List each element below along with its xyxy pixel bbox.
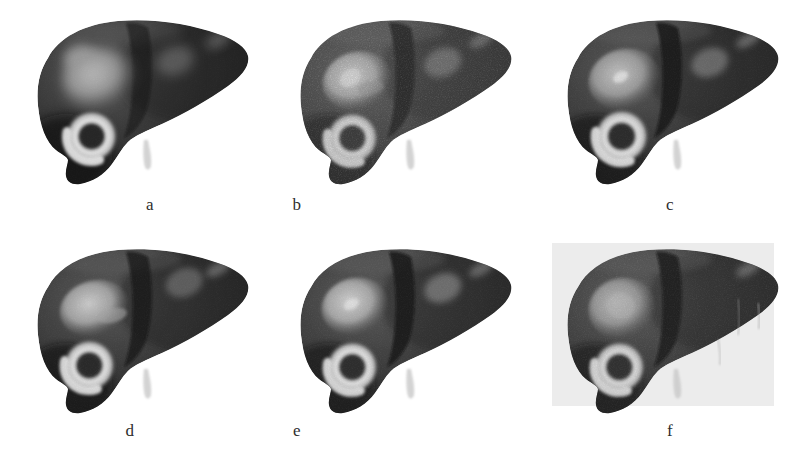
panel-label-d: d (110, 422, 150, 439)
liver-render-b (285, 14, 517, 194)
panel-label-b: b (277, 196, 317, 213)
render-noise-overlay (285, 243, 517, 423)
panel-label-f: f (650, 422, 690, 439)
liver-render-c (552, 14, 784, 194)
panel-label-c: c (650, 196, 690, 213)
ligament-nub (406, 369, 414, 399)
liver-render-f (552, 243, 784, 423)
panel-label-e: e (277, 422, 317, 439)
ligament-nub (673, 140, 681, 170)
render-noise-overlay (22, 243, 254, 423)
ligament-nub (406, 140, 414, 170)
ligament-nub (143, 140, 151, 170)
render-noise-overlay (22, 14, 254, 194)
figure-root: abcdef (0, 0, 811, 453)
panel-e (285, 243, 517, 423)
panel-b (285, 14, 517, 194)
panel-a (22, 14, 254, 194)
panel-label-a: a (130, 196, 170, 213)
liver-render-e (285, 243, 517, 423)
render-noise-overlay (552, 14, 784, 194)
liver-render-a (22, 14, 254, 194)
panel-c (552, 14, 784, 194)
ligament-nub (143, 369, 151, 399)
liver-render-d (22, 243, 254, 423)
panel-f (552, 243, 784, 423)
render-noise-overlay (285, 14, 517, 194)
panel-d (22, 243, 254, 423)
